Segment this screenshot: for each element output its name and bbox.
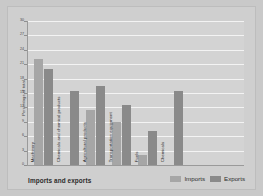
bar-exports[interactable] [148,131,157,165]
y-axis-tick-mark [24,21,27,22]
y-axis-line [27,21,28,166]
category-label: Fuels [135,151,139,162]
y-axis-tick-mark [24,79,27,80]
bar-imports[interactable] [112,122,121,165]
bar-group: Transportation equipment [112,21,133,165]
bar-exports[interactable] [122,105,131,165]
bar-imports[interactable] [86,110,95,165]
bar-imports[interactable] [138,155,147,165]
y-axis-tick-mark [24,136,27,137]
category-label: Chemicals [161,141,165,162]
y-axis-tick-mark [24,64,27,65]
y-axis-tick-mark [24,93,27,94]
legend-swatch [170,176,181,182]
category-label: Machinery [31,142,35,162]
category-label: Chemicals and chemical products [57,96,61,162]
bar-imports[interactable] [34,59,43,165]
y-axis-tick-mark [24,151,27,152]
x-axis-title: Imports and exports [28,177,91,184]
bar-exports[interactable] [96,86,105,165]
category-label: Agricultural products [83,122,87,162]
y-axis-title: Percentage of total [21,80,26,115]
legend-label: Imports [184,175,205,182]
legend-item[interactable]: Imports [170,175,205,182]
y-axis-tick-mark [24,35,27,36]
bar-group: Chemicals and chemical products [60,21,81,165]
bar-group: Agricultural products [86,21,107,165]
legend-item[interactable]: Exports [210,175,245,182]
plot-area: MachineryChemicals and chemical products… [28,21,244,165]
y-axis-tick-mark [24,50,27,51]
y-axis-tick-mark [24,107,27,108]
chart-legend: ImportsExports [170,175,245,182]
y-axis-tick-mark [24,165,27,166]
bar-exports[interactable] [70,91,79,165]
bar-exports[interactable] [174,91,183,165]
bar-group: Fuels [138,21,159,165]
category-label: Transportation equipment [109,112,113,162]
bar-exports[interactable] [44,69,53,165]
legend-swatch [210,176,221,182]
legend-label: Exports [224,175,245,182]
x-axis-line [27,165,244,166]
y-axis-tick-mark [24,122,27,123]
bar-group: Chemicals [164,21,185,165]
chart-card: Percentage of total MachineryChemicals a… [7,6,256,190]
bar-group: Machinery [34,21,55,165]
